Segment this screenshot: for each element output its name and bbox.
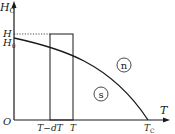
cycle-rectangle: [50, 34, 73, 120]
region-n-label: n: [121, 60, 128, 71]
region-s-label: s: [98, 89, 103, 100]
x-axis-label: T: [160, 104, 169, 117]
phase-diagram: n s HC T O H H0 T−dT T TC: [0, 0, 175, 134]
tick-t: T: [70, 123, 77, 133]
origin-label: O: [3, 116, 11, 127]
y-axis-label: HC: [0, 1, 15, 15]
tick-t-minus-dt: T−dT: [37, 123, 63, 133]
critical-field-curve: [14, 38, 148, 120]
tc-label: TC: [144, 123, 155, 134]
x-axis-arrow-icon: [163, 118, 170, 123]
